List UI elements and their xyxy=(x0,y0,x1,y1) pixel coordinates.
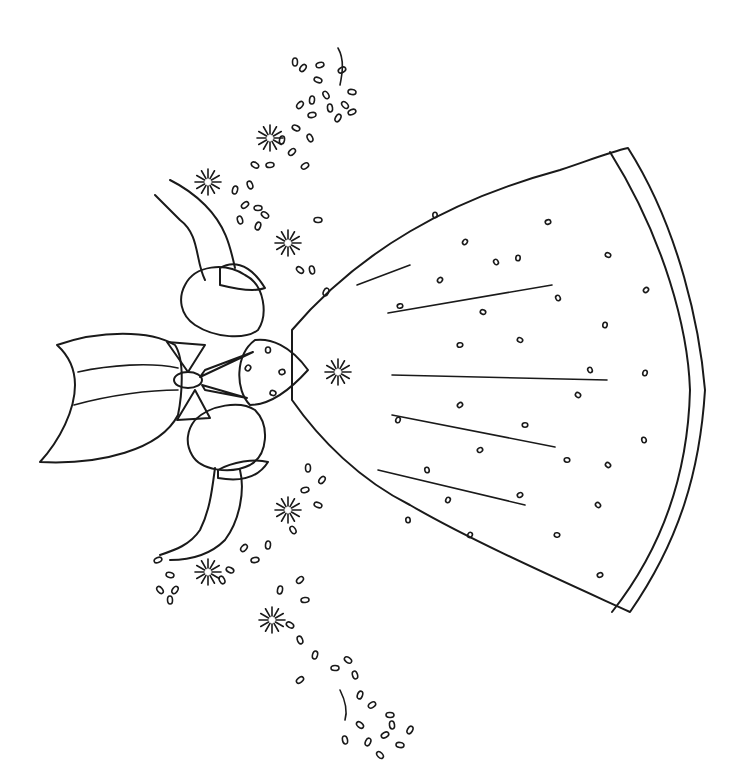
dot xyxy=(396,742,405,748)
dot xyxy=(313,501,322,509)
dot xyxy=(516,492,523,499)
dot xyxy=(380,731,389,739)
stem-bottom xyxy=(340,690,346,720)
embroidery-illustration xyxy=(0,0,749,772)
dot xyxy=(574,392,581,399)
dot xyxy=(480,309,487,315)
sunbursts xyxy=(195,125,351,633)
dot xyxy=(225,566,234,574)
dot xyxy=(171,585,180,594)
stem-top xyxy=(338,48,342,85)
skirt xyxy=(292,148,705,612)
garland-top xyxy=(232,58,357,297)
dot xyxy=(587,367,593,374)
dot xyxy=(300,486,309,493)
dot xyxy=(375,750,384,759)
bodice-dots xyxy=(244,347,285,396)
dot xyxy=(597,572,604,578)
dot xyxy=(289,525,297,534)
dot xyxy=(240,201,249,210)
dot xyxy=(293,58,298,66)
dot xyxy=(545,219,552,225)
dot xyxy=(641,437,647,444)
dot xyxy=(457,343,463,348)
dot xyxy=(389,721,395,730)
dot xyxy=(342,736,349,745)
dot xyxy=(266,347,271,353)
dot xyxy=(356,690,363,699)
dot xyxy=(251,557,260,563)
dot xyxy=(260,211,269,220)
dot xyxy=(277,586,283,595)
dot xyxy=(254,205,262,210)
dot xyxy=(327,104,333,113)
dot xyxy=(334,113,342,122)
dot xyxy=(309,266,316,275)
dot xyxy=(296,635,304,644)
dot xyxy=(347,108,356,116)
dot xyxy=(291,124,300,132)
dot xyxy=(406,725,414,734)
dot xyxy=(306,133,314,142)
dot xyxy=(295,100,304,109)
dot xyxy=(493,258,500,265)
dot xyxy=(456,402,463,409)
dot xyxy=(313,76,322,84)
dot xyxy=(445,497,451,504)
dot xyxy=(331,665,339,670)
dot xyxy=(462,238,469,245)
dot xyxy=(405,517,410,523)
dot xyxy=(397,303,403,308)
dot xyxy=(306,464,311,472)
dot xyxy=(322,287,330,296)
dot xyxy=(351,670,358,679)
dot xyxy=(522,423,528,427)
dot xyxy=(395,417,401,424)
dot xyxy=(367,701,376,710)
dot xyxy=(594,501,601,508)
dot xyxy=(476,447,483,454)
skirt-dots xyxy=(395,212,650,578)
dot xyxy=(315,61,324,68)
dot xyxy=(343,656,352,665)
dot xyxy=(244,364,252,372)
sleeves xyxy=(155,180,268,560)
dot xyxy=(299,63,308,72)
dot xyxy=(239,543,248,552)
dot xyxy=(166,572,175,579)
dot xyxy=(516,255,521,261)
dot xyxy=(295,265,304,274)
dot xyxy=(254,221,261,230)
dot xyxy=(301,597,309,603)
dot xyxy=(287,147,296,156)
dot xyxy=(308,112,317,118)
dot xyxy=(246,180,254,189)
dot xyxy=(318,475,327,484)
dot xyxy=(265,541,271,549)
dot xyxy=(295,575,304,584)
bodice xyxy=(239,340,308,405)
dot xyxy=(153,556,162,564)
dot xyxy=(295,676,304,685)
dot xyxy=(236,215,243,224)
dot xyxy=(218,575,226,584)
dot xyxy=(424,467,429,473)
dot xyxy=(266,162,274,168)
bonnet xyxy=(40,334,182,463)
dot xyxy=(269,390,276,397)
dot xyxy=(232,185,239,194)
dot xyxy=(642,370,648,377)
dot xyxy=(322,90,330,99)
dot xyxy=(602,322,607,328)
dot xyxy=(348,89,357,95)
dot xyxy=(516,337,523,344)
dot xyxy=(554,532,560,537)
dot xyxy=(386,712,394,718)
dot xyxy=(250,161,259,169)
dot xyxy=(564,458,570,463)
dot xyxy=(309,96,315,104)
dot xyxy=(436,276,443,283)
dot xyxy=(167,596,172,604)
dot xyxy=(314,217,322,223)
dot xyxy=(642,286,649,293)
